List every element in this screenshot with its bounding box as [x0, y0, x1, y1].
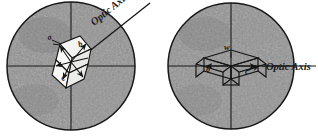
optics-figure: a b c Optic Axis [0, 0, 318, 139]
right-vertex-label-w: w [224, 42, 230, 52]
figure-canvas: a b c Optic Axis [0, 0, 318, 139]
right-vertex-label-c: c [245, 67, 249, 76]
right-vertex-label-b: b [206, 65, 210, 74]
right-optic-axis-label: Optic Axis [266, 61, 311, 72]
